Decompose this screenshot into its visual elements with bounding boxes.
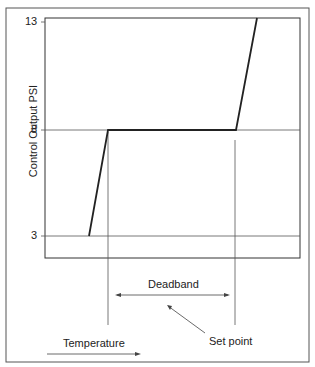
y-axis-label: Control Output PSI xyxy=(27,76,39,186)
temperature-label: Temperature xyxy=(63,337,125,349)
plot-area xyxy=(45,18,300,258)
deadband-diagram xyxy=(0,0,315,367)
outer-frame xyxy=(6,8,309,362)
deadband-label: Deadband xyxy=(148,278,199,290)
control-output-line xyxy=(89,18,257,236)
y-tick-3: 3 xyxy=(31,229,37,241)
y-tick-13: 13 xyxy=(25,15,37,27)
set-point-pointer xyxy=(168,306,205,333)
set-point-label: Set point xyxy=(209,335,252,347)
